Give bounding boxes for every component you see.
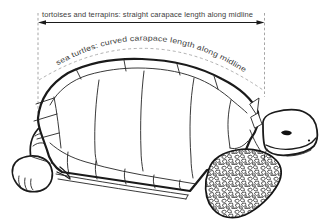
arrowhead-right-icon <box>257 20 265 25</box>
plastron-line-join <box>186 195 188 199</box>
straight-length-arrow <box>38 20 265 25</box>
turtle-head <box>263 110 318 161</box>
turtle-illustration <box>12 59 317 218</box>
turtle-measurement-diagram: tortoises and terrapins: straight carapa… <box>0 0 329 224</box>
arrowhead-left-icon <box>38 20 46 25</box>
straight-length-label: tortoises and terrapins: straight carapa… <box>42 10 253 19</box>
front-leg-scaly <box>206 149 282 218</box>
nostril-dot <box>308 139 310 141</box>
carapace-measurement-figure: tortoises and terrapins: straight carapa… <box>0 0 329 224</box>
